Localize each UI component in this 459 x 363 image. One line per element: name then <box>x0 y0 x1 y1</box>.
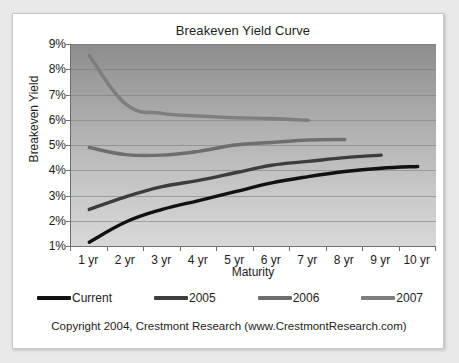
legend-item-2006[interactable]: 2006 <box>258 291 320 305</box>
chart-card: Breakeven Yield Curve Breakeven Yield 9%… <box>12 13 444 349</box>
y-axis-tick-label: 6% <box>22 113 66 127</box>
copyright-notice: Copyright 2004, Crestmont Research (www.… <box>13 320 445 332</box>
y-axis-tick-label: 2% <box>22 214 66 228</box>
y-axis-tick-label: 5% <box>22 138 66 152</box>
y-axis-tick-labels: 9%8%7%6%5%4%3%2%1% <box>18 44 66 246</box>
x-axis-tick-labels: 1 yr2 yr3 yr4 yr5 yr6 yr7 yr8 yr9 yr10 y… <box>70 248 436 266</box>
chart-title: Breakeven Yield Curve <box>73 23 413 38</box>
legend-item-2007[interactable]: 2007 <box>361 291 423 305</box>
y-axis-tick-label: 1% <box>22 239 66 253</box>
y-axis-tick-label: 3% <box>22 189 66 203</box>
x-axis-title: Maturity <box>70 265 436 279</box>
legend-swatch-icon <box>258 296 292 300</box>
plot-area <box>70 44 436 247</box>
y-axis-tick-label: 8% <box>22 62 66 76</box>
series-line-2005 <box>89 155 381 209</box>
legend-swatch-icon <box>361 296 395 300</box>
legend-label: 2005 <box>189 291 216 305</box>
series-line-2006 <box>89 139 345 155</box>
legend-item-2005[interactable]: 2005 <box>154 291 216 305</box>
y-axis-tick-label: 7% <box>22 88 66 102</box>
series-line-current <box>89 166 418 242</box>
y-axis-tick-label: 4% <box>22 163 66 177</box>
legend-swatch-icon <box>154 296 188 300</box>
series-line-2007 <box>89 55 308 120</box>
legend-item-current[interactable]: Current <box>37 291 112 305</box>
series-lines <box>71 44 436 246</box>
legend-swatch-icon <box>37 296 71 300</box>
legend-label: Current <box>72 291 112 305</box>
chart-legend: Current200520062007 <box>37 288 423 308</box>
legend-label: 2006 <box>293 291 320 305</box>
legend-label: 2007 <box>396 291 423 305</box>
y-axis-tick-label: 9% <box>22 37 66 51</box>
